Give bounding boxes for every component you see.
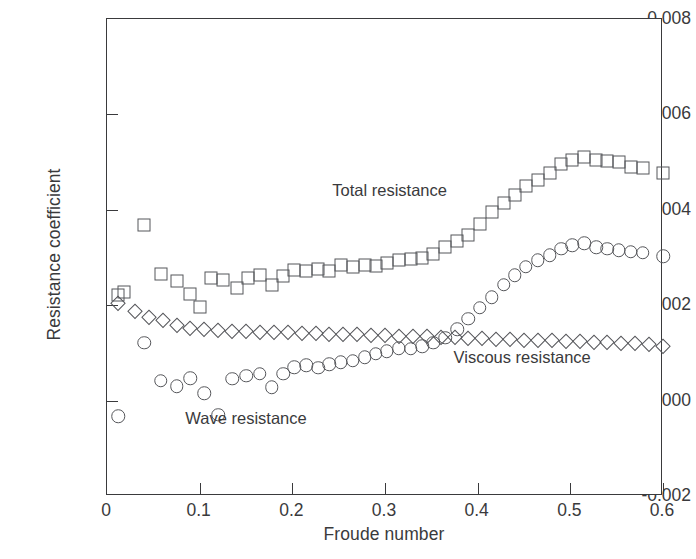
data-point-diamond [141,309,156,324]
data-point-square [624,160,637,173]
data-point-circle [198,387,212,401]
data-point-square [184,288,197,301]
x-axis-tick [478,483,479,494]
data-point-circle [154,374,168,388]
data-point-circle [239,369,253,383]
data-point-diamond [378,328,393,343]
x-axis-tick [292,483,293,494]
x-axis-tick-label: 0.5 [529,500,609,521]
data-point-diamond [294,325,309,340]
data-point-diamond [308,325,323,340]
data-point-circle [451,322,465,336]
data-point-square [485,205,498,218]
data-point-square [253,268,266,281]
data-point-square [138,219,151,232]
y-axis-tick [107,210,118,211]
data-point-square [204,272,217,285]
data-point-square [636,162,649,175]
data-point-diamond [656,338,671,353]
data-point-circle [111,410,125,424]
x-axis-tick-label: 0.6 [622,500,696,521]
data-point-circle [462,312,476,326]
x-axis-tick-label: 0.4 [437,500,517,521]
data-point-square [241,271,254,284]
series-label-wave-resistance: Wave resistance [185,408,306,427]
data-point-diamond [544,333,559,348]
data-point-square [439,241,452,254]
data-point-circle [636,246,650,260]
x-axis-tick [200,483,201,494]
data-point-circle [473,301,487,315]
data-point-square [346,261,359,274]
x-axis-tick [385,483,386,494]
data-point-square [427,247,440,260]
x-axis-tick-label: 0.1 [159,500,239,521]
x-axis-tick [663,483,664,494]
data-point-square [566,154,579,167]
data-point-square [154,268,167,281]
data-point-diamond [225,324,240,339]
data-point-square [473,218,486,231]
data-point-diamond [197,322,212,337]
data-point-square [578,151,591,164]
series-label-viscous-resistance: Viscous resistance [454,347,591,366]
data-point-diamond [530,333,545,348]
data-point-diamond [155,313,170,328]
y-axis-tick [107,401,118,402]
data-point-square [531,173,544,186]
data-point-square [519,179,532,192]
data-point-circle [225,372,239,386]
plot-area: Total resistanceViscous resistanceWave r… [107,19,661,494]
data-point-diamond [252,324,267,339]
data-point-diamond [364,327,379,342]
data-point-circle [265,380,279,394]
y-axis-tick [107,114,118,115]
x-axis-tick-label: 0.3 [344,500,424,521]
data-point-square [612,156,625,169]
data-point-circle [485,290,499,304]
series-label-total-resistance: Total resistance [332,180,447,199]
data-point-square [392,254,405,267]
data-point-circle [253,367,267,381]
data-point-circle [656,249,670,263]
data-point-square [334,259,347,272]
y-axis-title: Resistance coefficient [44,105,65,405]
data-point-circle [438,331,452,345]
data-point-diamond [280,325,295,340]
data-point-square [657,166,670,179]
x-axis-tick [570,483,571,494]
data-point-square [216,274,229,287]
data-point-diamond [266,325,281,340]
data-point-square [193,301,206,314]
data-point-circle [184,371,198,385]
data-point-circle [497,278,511,292]
data-point-square [300,264,313,277]
plot-frame: Total resistanceViscous resistanceWave r… [106,18,662,495]
data-point-square [288,263,301,276]
data-point-square [380,257,393,270]
x-axis-tick-label: 0 [66,500,146,521]
data-point-circle [170,380,184,394]
data-point-diamond [169,318,184,333]
data-point-diamond [127,304,142,319]
data-point-diamond [558,334,573,349]
data-point-diamond [503,332,518,347]
x-axis-tick-label: 0.2 [251,500,331,521]
x-axis-title: Froude number [106,524,662,545]
data-point-square [170,275,183,288]
data-point-circle [137,336,151,350]
data-point-diamond [642,336,657,351]
